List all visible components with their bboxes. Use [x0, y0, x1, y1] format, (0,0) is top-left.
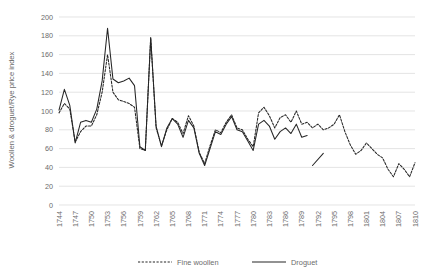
- x-tick-label: 1789: [297, 211, 306, 227]
- y-tick-label: 40: [45, 163, 53, 172]
- y-tick-label: 20: [45, 182, 53, 191]
- chart-legend: Fine woollenDroguet: [138, 258, 317, 267]
- price-index-line-chart: 020406080100120140160180200 174417471750…: [0, 0, 421, 278]
- y-axis-tick-labels: 020406080100120140160180200: [41, 13, 53, 210]
- y-tick-label: 60: [45, 144, 53, 153]
- x-tick-label: 1801: [362, 211, 371, 227]
- y-tick-label: 200: [41, 13, 53, 22]
- x-tick-label: 1783: [265, 211, 274, 227]
- series-line-fine-woollen: [59, 38, 415, 177]
- y-tick-label: 80: [45, 125, 53, 134]
- x-tick-label: 1759: [136, 211, 145, 227]
- legend-label-droguet: Droguet: [291, 258, 317, 267]
- y-tick-label: 100: [41, 107, 53, 116]
- x-tick-label: 1786: [281, 211, 290, 227]
- x-tick-label: 1792: [314, 211, 323, 227]
- x-tick-label: 1798: [346, 211, 355, 227]
- x-tick-label: 1777: [233, 211, 242, 227]
- x-tick-label: 1795: [330, 211, 339, 227]
- x-tick-label: 1804: [378, 211, 387, 227]
- data-series: [59, 28, 415, 177]
- x-tick-label: 1756: [119, 211, 128, 227]
- x-axis-tick-labels: 1744174717501753175617591762176517681771…: [55, 211, 420, 227]
- x-tick-label: 1744: [55, 211, 64, 227]
- y-tick-label: 180: [41, 31, 53, 40]
- chart-canvas: 020406080100120140160180200 174417471750…: [0, 0, 421, 278]
- y-axis-title: Woollen & droguet/Rye price index: [7, 51, 16, 168]
- x-tick-label: 1780: [249, 211, 258, 227]
- x-tick-label: 1810: [411, 211, 420, 227]
- legend-label-fine-woollen: Fine woollen: [177, 258, 219, 267]
- x-tick-label: 1768: [184, 211, 193, 227]
- y-tick-label: 160: [41, 50, 53, 59]
- series-line-droguet-tail: [313, 153, 324, 165]
- x-tick-label: 1774: [216, 211, 225, 227]
- gridlines: [59, 17, 415, 205]
- x-tick-label: 1765: [168, 211, 177, 227]
- x-tick-label: 1750: [87, 211, 96, 227]
- y-tick-label: 0: [49, 201, 53, 210]
- x-tick-label: 1771: [200, 211, 209, 227]
- series-line-droguet: [59, 28, 307, 165]
- y-tick-label: 120: [41, 88, 53, 97]
- x-tick-label: 1753: [103, 211, 112, 227]
- x-tick-label: 1762: [152, 211, 161, 227]
- y-tick-label: 140: [41, 69, 53, 78]
- x-tick-label: 1747: [71, 211, 80, 227]
- x-tick-label: 1807: [394, 211, 403, 227]
